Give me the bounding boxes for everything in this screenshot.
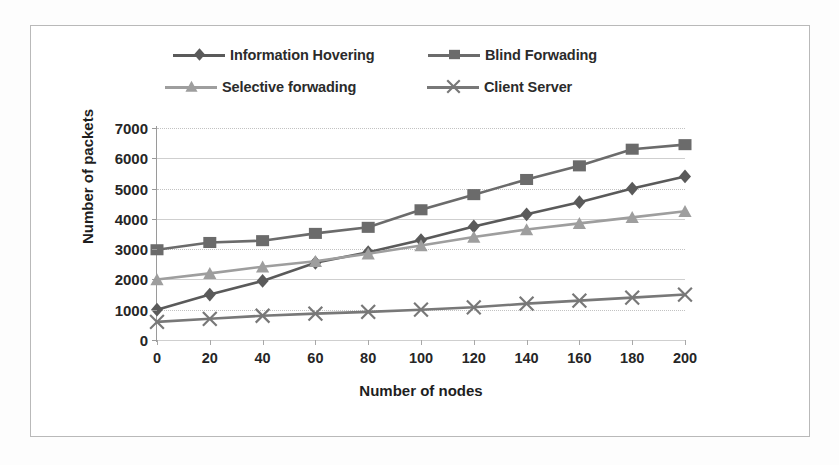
y-tick-label: 3000 [115,241,148,258]
x-tick-label: 0 [153,350,161,366]
y-tick-mark [152,158,157,159]
x-tick-label: 160 [567,350,591,366]
x-tick-mark [421,340,422,345]
x-tick-mark [632,340,633,345]
data-point-diamond [679,170,691,184]
y-tick-mark [152,279,157,280]
y-tick-label: 0 [140,332,148,349]
y-tick-mark [152,189,157,190]
x-tick-mark [315,340,316,345]
x-tick-label: 200 [673,350,697,366]
data-point-diamond [573,195,585,209]
y-tick-mark [152,128,157,129]
x-axis-title: Number of nodes [157,382,685,399]
data-point-square [679,139,692,150]
data-point-square [573,160,586,171]
plot-wrapper: Number of packets Number of nodes 010002… [0,0,839,465]
data-point-square [415,204,428,215]
data-point-square [520,174,533,185]
x-tick-label: 100 [409,350,433,366]
y-tick-label: 5000 [115,180,148,197]
x-tick-label: 120 [462,350,486,366]
x-tick-mark [263,340,264,345]
y-tick-mark [152,310,157,311]
x-tick-mark [210,340,211,345]
y-tick-label: 4000 [115,210,148,227]
x-tick-label: 20 [202,350,218,366]
data-point-square [309,228,322,239]
x-tick-label: 140 [514,350,538,366]
x-tick-mark [527,340,528,345]
data-point-diamond [204,288,216,302]
data-point-square [467,189,480,200]
x-tick-label: 40 [255,350,271,366]
data-point-diamond [626,182,638,196]
data-point-square [626,144,639,155]
data-point-diamond [257,274,269,288]
series-layer [157,128,685,340]
x-tick-mark [579,340,580,345]
y-tick-label: 6000 [115,150,148,167]
x-tick-label: 60 [307,350,323,366]
figure-container: Information Hovering Blind Forwading Sel… [0,0,839,465]
x-tick-label: 180 [620,350,644,366]
x-tick-mark [685,340,686,345]
y-tick-label: 2000 [115,271,148,288]
data-point-diamond [521,207,533,221]
x-tick-mark [474,340,475,345]
x-tick-label: 80 [360,350,376,366]
y-tick-mark [152,249,157,250]
y-tick-label: 7000 [115,120,148,137]
y-tick-label: 1000 [115,301,148,318]
y-axis-title: Number of packets [79,77,96,277]
data-point-square [362,222,375,233]
data-point-square [203,237,216,248]
x-tick-mark [157,340,158,345]
data-point-square [256,235,269,246]
x-tick-mark [368,340,369,345]
x-ticks: 020406080100120140160180200 [157,340,685,370]
y-tick-mark [152,219,157,220]
plot-area [157,128,685,340]
